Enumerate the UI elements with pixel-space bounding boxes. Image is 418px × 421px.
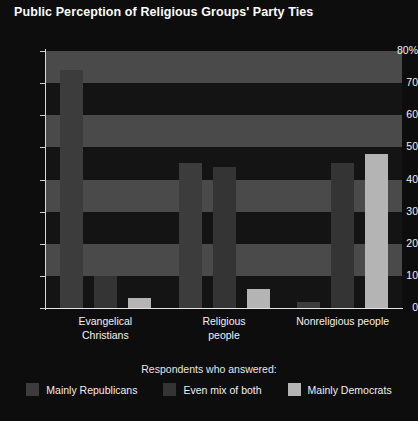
legend-label: Even mix of both [183,384,261,396]
bar [213,167,236,308]
y-axis-tick-label: 10 [380,269,418,281]
x-axis-line [45,308,403,309]
bar [128,298,151,308]
bar [179,163,202,308]
legend-items: Mainly RepublicansEven mix of bothMainly… [0,383,418,396]
legend-swatch [26,383,39,396]
bar [331,163,354,308]
y-axis-tick-label: 70 [380,76,418,88]
chart-root: Public Perception of Religious Groups' P… [0,0,418,421]
legend-title: Respondents who answered: [0,363,418,375]
x-axis-category-label-line: Evangelical [46,314,165,328]
x-axis-category-labels: EvangelicalChristiansReligiouspeopleNonr… [46,314,402,354]
y-axis-tick [40,308,45,309]
x-axis-category-label-line: people [165,328,284,342]
x-axis-category-label-line: Christians [46,328,165,342]
y-axis-tick [40,212,45,213]
chart-title: Public Perception of Religious Groups' P… [14,5,313,19]
bars-layer [46,51,402,308]
y-axis-tick-label: 0 [380,301,418,313]
y-axis-tick [40,276,45,277]
legend-label: Mainly Republicans [46,384,137,396]
y-axis-tick-label: 40 [380,173,418,185]
legend: Respondents who answered: Mainly Republi… [0,363,418,396]
y-axis-tick [40,147,45,148]
bar [247,289,270,308]
x-axis-category-label: EvangelicalChristians [46,314,165,342]
plot-area [46,51,402,308]
y-axis-tick-label: 60 [380,108,418,120]
y-axis-tick-label: 50 [380,140,418,152]
legend-swatch [288,383,301,396]
y-axis-tick [40,180,45,181]
y-axis-tick-label: 80% [380,44,418,56]
y-axis-tick [40,51,45,52]
x-axis-category-label: Nonreligious people [283,314,402,328]
x-axis-category-label-line: Nonreligious people [283,314,402,328]
y-axis-tick [40,83,45,84]
x-axis-category-label: Religiouspeople [165,314,284,342]
y-axis-line [45,49,46,310]
legend-item[interactable]: Even mix of both [163,383,261,396]
legend-label: Mainly Democrats [308,384,392,396]
legend-swatch [163,383,176,396]
x-axis-category-label-line: Religious [165,314,284,328]
legend-item[interactable]: Mainly Republicans [26,383,137,396]
y-axis-tick [40,115,45,116]
y-axis-tick-label: 20 [380,237,418,249]
bar [94,276,117,308]
y-axis-tick [40,244,45,245]
legend-item[interactable]: Mainly Democrats [288,383,392,396]
bar [60,70,83,308]
y-axis-tick-label: 30 [380,205,418,217]
